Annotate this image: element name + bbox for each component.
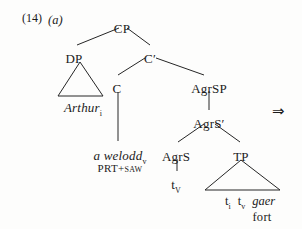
tp-terminal-2: gaer [252, 195, 275, 208]
lexical-item-tv-agrs: tV [171, 178, 181, 195]
gloss-prt-saw: PRT+saw [98, 163, 143, 174]
tree-node-c: C [113, 82, 122, 95]
index-subscript: i [100, 109, 102, 118]
tree-node-tp: TP [233, 150, 249, 163]
lexical-item-text: a welodd [94, 148, 143, 163]
tree-edge-cp-dp [77, 28, 119, 45]
index-subscript: v [142, 157, 146, 166]
tree-node-cp: CP [114, 22, 130, 35]
tree-node-agrsbar: AgrS′ [193, 117, 224, 130]
tp-terminal-1: tv [238, 195, 245, 211]
figure-canvas: (14) (a) CPDPC′CAgrSPAgrS′AgrSTPArthuria… [0, 0, 302, 229]
tree-node-cbar: C′ [144, 52, 156, 65]
tree-edge-cp-cbar [127, 28, 150, 45]
tp-terminal-row: titvgaer [225, 195, 275, 211]
prime-mark: ′ [153, 51, 156, 66]
lexical-item-text: Arthur [64, 100, 100, 115]
tp-terminal-text: gaer [252, 194, 275, 208]
tree-edge-cbar-agrsp [156, 58, 204, 75]
lexical-item-arthur: Arthuri [64, 101, 102, 118]
dp-triangle [58, 62, 103, 96]
index-subscript: v [241, 202, 245, 211]
tree-node-label: TP [233, 149, 249, 164]
tree-node-label: CP [114, 21, 130, 36]
tree-node-label: AgrSP [191, 81, 227, 96]
tree-node-label: DP [65, 51, 82, 66]
tree-node-label: AgrS [162, 149, 190, 164]
gloss-fort: fort [252, 211, 271, 224]
example-letter: (a) [48, 14, 63, 27]
tree-node-label: C [113, 81, 122, 96]
index-subscript: V [175, 186, 181, 195]
tree-node-dp: DP [65, 52, 82, 65]
tp-terminal-0: ti [225, 195, 231, 211]
tp-triangle [205, 160, 280, 190]
tree-node-label: C [144, 51, 153, 66]
gloss-text: fort [252, 210, 271, 224]
example-number-text: (14) [22, 11, 42, 25]
index-subscript: i [228, 202, 230, 211]
tree-node-agrsp: AgrSP [191, 82, 227, 95]
tree-edge-cbar-c [118, 58, 145, 75]
prime-mark: ′ [222, 116, 225, 131]
derivation-arrow-icon: ⇒ [272, 104, 285, 119]
tree-node-agrs: AgrS [162, 150, 190, 163]
tree-node-label: AgrS [193, 116, 221, 131]
gloss-text: PRT+saw [98, 162, 143, 174]
example-number: (14) [22, 12, 42, 24]
